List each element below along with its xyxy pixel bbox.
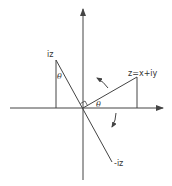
label-theta-iz: θ <box>57 72 62 81</box>
right-angle-marker <box>81 101 88 106</box>
label-neg-iz: -iz <box>114 159 123 168</box>
counterclockwise-arrow-icon <box>97 78 108 88</box>
z-vector <box>83 77 137 108</box>
iz-line <box>56 60 112 162</box>
label-theta-z: θ <box>96 100 101 109</box>
label-iz: iz <box>47 50 53 59</box>
label-z: z=x+iy <box>128 69 158 78</box>
complex-plane-rotation-diagram: z=x+iy iz -iz θ θ <box>0 0 172 186</box>
clockwise-arrow-icon <box>112 113 116 127</box>
